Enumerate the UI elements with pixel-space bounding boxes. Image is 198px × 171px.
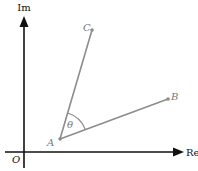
segment-AB — [60, 99, 168, 139]
point-A — [58, 137, 62, 141]
segment-AC — [60, 30, 92, 139]
point-B — [166, 97, 170, 101]
real-axis-arrow-icon — [173, 148, 184, 157]
complex-plane-diagram: Im Re O A B C θ — [0, 0, 198, 171]
point-C — [90, 28, 94, 32]
real-axis-label: Re — [186, 147, 198, 158]
imaginary-axis-arrow-icon — [20, 16, 29, 27]
point-C-label: C — [83, 22, 91, 33]
imaginary-axis-label: Im — [17, 2, 31, 13]
point-B-label: B — [170, 91, 178, 102]
origin-label: O — [12, 154, 20, 165]
angle-theta-label: θ — [67, 119, 73, 130]
point-A-label: A — [46, 137, 54, 148]
